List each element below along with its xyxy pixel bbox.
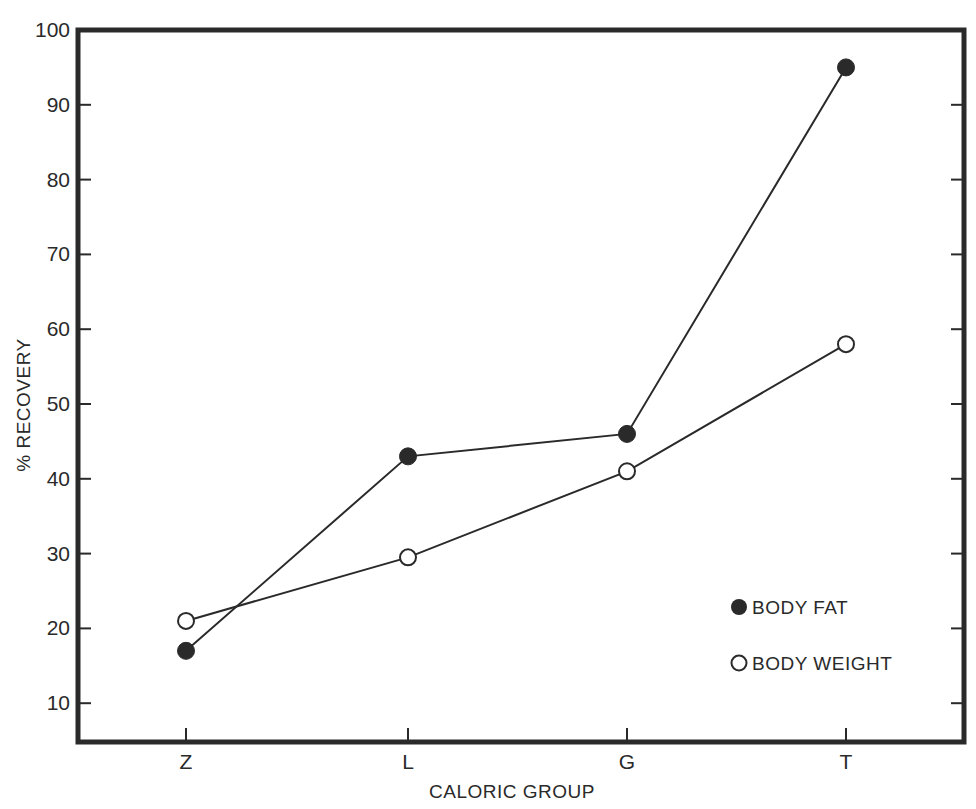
x-tick-label: Z	[180, 750, 193, 773]
y-tick-label: 70	[47, 242, 70, 265]
series-line-body-weight	[186, 344, 846, 621]
legend-body-weight-marker-icon	[732, 656, 747, 671]
y-tick-label: 40	[47, 467, 70, 490]
chart-canvas: 102030405060708090100 ZLGT CALORIC GROUP…	[0, 0, 976, 809]
x-tick-label: T	[840, 750, 853, 773]
filled-circle-marker-icon	[400, 448, 417, 465]
open-circle-marker-icon	[619, 463, 635, 479]
y-tick-label: 60	[47, 317, 70, 340]
y-tick-label: 80	[47, 168, 70, 191]
y-tick-label: 50	[47, 392, 70, 415]
open-circle-marker-icon	[400, 549, 416, 565]
plot-border	[78, 30, 964, 742]
filled-circle-marker-icon	[838, 59, 855, 76]
filled-circle-marker-icon	[178, 642, 195, 659]
data-series	[178, 59, 855, 659]
open-circle-marker-icon	[838, 336, 854, 352]
legend-body-fat-label: BODY FAT	[752, 597, 848, 618]
x-tick-label: L	[402, 750, 414, 773]
legend: BODY FAT BODY WEIGHT	[731, 597, 892, 674]
y-tick-label: 90	[47, 93, 70, 116]
open-circle-marker-icon	[178, 613, 194, 629]
y-tick-label: 30	[47, 542, 70, 565]
x-axis-ticks: ZLGT	[180, 728, 853, 773]
y-tick-label: 100	[35, 18, 70, 41]
y-tick-label: 10	[47, 691, 70, 714]
legend-body-weight-label: BODY WEIGHT	[752, 653, 892, 674]
x-tick-label: G	[619, 750, 635, 773]
filled-circle-marker-icon	[619, 425, 636, 442]
y-axis-title: % RECOVERY	[13, 338, 34, 471]
legend-body-fat-marker-icon	[731, 599, 747, 615]
plot-frame	[78, 30, 964, 742]
series-line-body-fat	[186, 67, 846, 650]
y-tick-label: 20	[47, 616, 70, 639]
x-axis-title: CALORIC GROUP	[429, 781, 595, 802]
